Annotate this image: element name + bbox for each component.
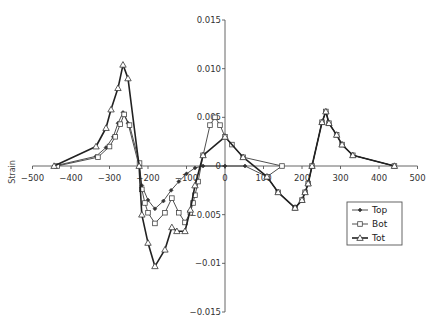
legend-label-bot: Bot [372, 219, 388, 229]
legend-label-top: Top [371, 205, 387, 215]
chart-legend: Top Bot Tot [347, 202, 402, 245]
chart-series [51, 62, 398, 269]
y-axis-label: Strain [8, 160, 17, 184]
x-tick-label: −400 [59, 173, 82, 183]
x-tick-label: −300 [98, 173, 121, 183]
x-tick-label: −500 [21, 173, 44, 183]
series-top [52, 109, 396, 210]
y-tick-label: 0.010 [197, 64, 221, 74]
legend-label-tot: Tot [371, 233, 385, 243]
y-tick-label: −0.005 [190, 210, 221, 220]
strain-chart: −500−400−300−200−10001002003004005000.01… [0, 0, 434, 327]
x-tick-label: 0 [222, 173, 227, 183]
y-tick-label: −0.01 [195, 258, 221, 268]
y-tick-label: −0.015 [190, 307, 221, 317]
y-tick-label: 0.015 [197, 15, 221, 25]
x-tick-label: 500 [409, 173, 425, 183]
x-tick-label: 300 [332, 173, 348, 183]
x-tick-label: 400 [371, 173, 387, 183]
